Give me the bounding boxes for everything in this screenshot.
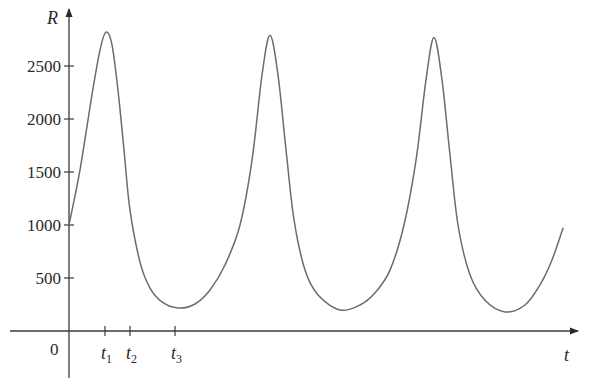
chart: 5001000150020002500 t1t2t3 R t 0 [0,0,590,384]
x-tick-label: t2 [126,343,137,366]
y-tick-label: 2000 [27,110,61,129]
x-axis-ticks: t1t2t3 [101,326,182,366]
y-tick-label: 1000 [27,216,61,235]
y-tick-label: 500 [36,269,62,288]
population-curve-R [69,32,563,312]
y-axis-label: R [46,8,58,28]
y-axis-ticks: 5001000150020002500 [27,57,74,288]
y-tick-label: 2500 [27,57,61,76]
x-tick-label: t1 [101,343,112,366]
x-axis-label: t [564,345,570,365]
x-tick-label: t3 [171,343,182,366]
y-tick-label: 1500 [27,163,61,182]
origin-label: 0 [50,340,59,359]
